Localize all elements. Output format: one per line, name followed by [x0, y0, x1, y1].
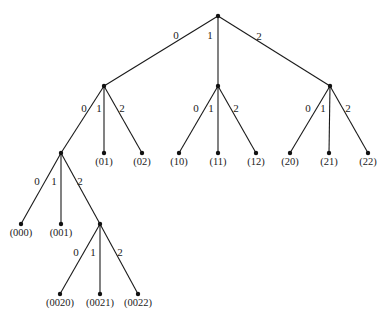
node-label: (001) [50, 227, 73, 239]
tree-edge [329, 86, 330, 153]
tree-edge [104, 16, 218, 86]
labels-layer: 012012012012012012(01)(02)(10)(11)(12)(2… [10, 29, 378, 309]
tree-edge [21, 153, 61, 224]
tree-node [59, 151, 63, 155]
node-label: (20) [281, 156, 299, 168]
tree-edge [61, 153, 100, 224]
edge-label: 0 [73, 246, 79, 258]
tree-node [216, 84, 220, 88]
edge-label: 1 [96, 102, 102, 114]
tree-node [177, 151, 181, 155]
edge-label: 0 [193, 102, 199, 114]
edge-label: 2 [77, 175, 83, 187]
edge-label: 1 [51, 175, 57, 187]
tree-node [102, 84, 106, 88]
edge-label: 2 [256, 30, 262, 42]
node-label: (0020) [46, 297, 74, 309]
tree-edge [104, 86, 142, 153]
node-label: (0021) [86, 297, 114, 309]
tree-node [59, 222, 63, 226]
node-label: (22) [359, 156, 377, 168]
node-label: (0022) [124, 297, 152, 309]
edge-label: 0 [305, 102, 311, 114]
tree-node [288, 151, 292, 155]
tree-node [254, 151, 258, 155]
tree-node [366, 151, 370, 155]
tree-node [98, 292, 102, 296]
edge-label: 1 [320, 102, 326, 114]
tree-svg: 012012012012012012(01)(02)(10)(11)(12)(2… [0, 0, 382, 321]
tree-edge [290, 86, 330, 153]
tree-edge [330, 86, 368, 153]
tree-edge [100, 224, 138, 294]
tree-node [102, 151, 106, 155]
tree-node [136, 292, 140, 296]
node-label: (02) [133, 156, 151, 168]
node-label: (21) [320, 156, 338, 168]
nodes-layer [19, 14, 370, 296]
tree-node [328, 84, 332, 88]
tree-edge [61, 86, 104, 153]
edge-label: 2 [119, 102, 125, 114]
tree-node [216, 14, 220, 18]
node-label: (12) [247, 156, 265, 168]
node-label: (01) [95, 156, 113, 168]
edge-label: 2 [117, 246, 123, 258]
tree-node [98, 222, 102, 226]
node-label: (10) [170, 156, 188, 168]
tree-node [58, 292, 62, 296]
tree-node [19, 222, 23, 226]
edge-label: 0 [34, 175, 40, 187]
node-label: (11) [209, 156, 227, 168]
edge-label: 0 [173, 29, 179, 41]
tree-diagram: 012012012012012012(01)(02)(10)(11)(12)(2… [0, 0, 382, 321]
edge-label: 2 [345, 102, 351, 114]
tree-node [140, 151, 144, 155]
node-label: (000) [10, 227, 33, 239]
tree-edge [179, 86, 218, 153]
edge-label: 1 [90, 246, 96, 258]
tree-node [216, 151, 220, 155]
edge-label: 1 [207, 29, 213, 41]
tree-node [327, 151, 331, 155]
edge-label: 0 [81, 102, 87, 114]
tree-edge [218, 86, 256, 153]
tree-edge [218, 16, 330, 86]
edge-label: 1 [208, 102, 214, 114]
edge-label: 2 [233, 102, 239, 114]
